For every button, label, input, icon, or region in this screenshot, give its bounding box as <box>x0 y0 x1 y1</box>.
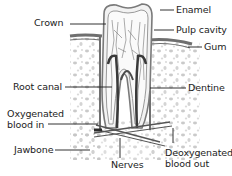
label-gum: Gum <box>204 41 226 52</box>
label-enamel: Enamel <box>176 4 211 15</box>
tooth <box>102 4 152 128</box>
label-crown: Crown <box>34 17 63 28</box>
label-oxygenated-blood-in: Oxygenated blood in <box>7 108 64 130</box>
label-nerves: Nerves <box>111 159 144 170</box>
label-oxygenated-line1: Oxygenated <box>7 108 64 119</box>
label-deoxygenated-line1: Deoxygenated <box>165 147 232 158</box>
label-deoxygenated-blood-out: Deoxygenated blood out <box>165 147 232 169</box>
label-pulp-cavity: Pulp cavity <box>176 24 227 35</box>
label-dentine: Dentine <box>188 82 225 93</box>
label-root-canal: Root canal <box>13 81 62 92</box>
label-jawbone: Jawbone <box>14 144 53 155</box>
label-deoxygenated-line2: blood out <box>165 158 232 169</box>
label-oxygenated-line2: blood in <box>7 119 64 130</box>
